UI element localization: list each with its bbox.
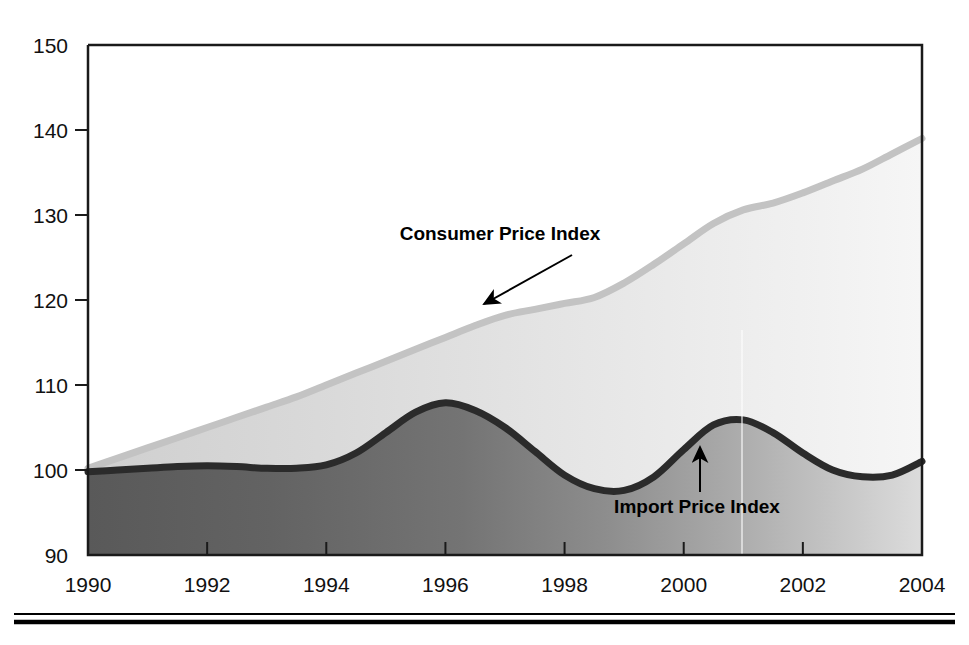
x-axis-tick-labels: 19901992199419961998200020022004 [65, 573, 946, 596]
footer-double-rule [14, 614, 955, 622]
y-tick-label: 140 [33, 119, 68, 142]
x-tick-label: 2004 [899, 573, 946, 596]
chart-figure: 90100110120130140150 1990199219941996199… [0, 0, 969, 645]
cpi-annotation-label: Consumer Price Index [400, 223, 601, 244]
x-tick-label: 1990 [65, 573, 112, 596]
x-tick-label: 1994 [303, 573, 350, 596]
y-axis-tick-labels: 90100110120130140150 [33, 34, 68, 567]
x-tick-label: 2000 [660, 573, 707, 596]
y-tick-label: 90 [45, 544, 68, 567]
y-axis-ticks [75, 130, 88, 470]
x-tick-label: 1996 [422, 573, 469, 596]
y-tick-label: 100 [33, 459, 68, 482]
y-tick-label: 110 [35, 374, 68, 397]
y-tick-label: 130 [33, 204, 68, 227]
x-tick-label: 1992 [184, 573, 231, 596]
x-tick-label: 2002 [779, 573, 826, 596]
y-tick-label: 150 [33, 34, 68, 57]
price-index-area-chart: 90100110120130140150 1990199219941996199… [0, 0, 969, 645]
y-tick-label: 120 [33, 289, 68, 312]
ipi-annotation-label: Import Price Index [614, 496, 780, 517]
x-tick-label: 1998 [541, 573, 588, 596]
